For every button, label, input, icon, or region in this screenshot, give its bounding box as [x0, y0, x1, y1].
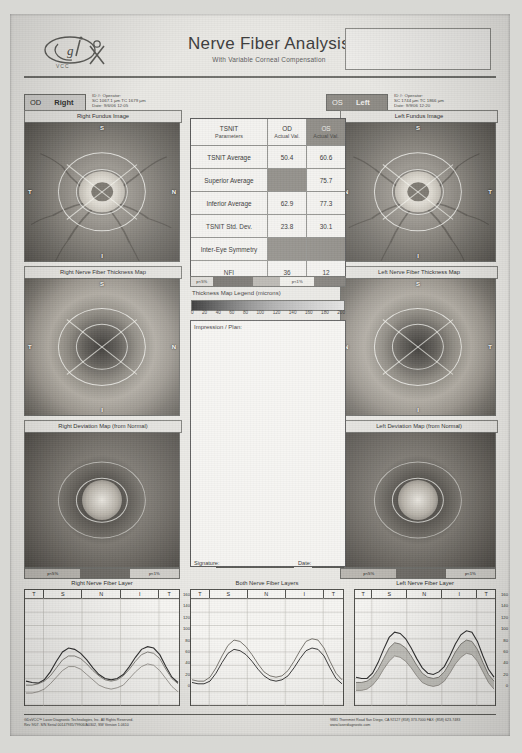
legend-tick: 60 [229, 310, 234, 315]
signature-label: Signature: [194, 560, 220, 566]
os-deviation-image [340, 432, 496, 568]
table-col-parameters-sub: Parameters [215, 133, 243, 139]
y-tick: 40 [180, 660, 190, 671]
row-os-value: 75.7 [307, 169, 345, 191]
zone-label: I [121, 590, 160, 598]
table-col-od-title: OD [282, 125, 292, 132]
impression-plan-label: Impression / Plan: [194, 324, 242, 330]
row-os-value: 60.6 [307, 146, 345, 168]
y-tick: 100 [496, 626, 508, 637]
table-col-parameters: TSNIT Parameters [191, 119, 268, 145]
zone-label: T [324, 590, 343, 598]
report-page: g VCC Nerve Fiber Analysis With Variable… [0, 0, 522, 753]
os-pvalue-1: p<1% [446, 569, 495, 578]
os-thickness-panel: Left Nerve Fiber Thickness Map S I N T [340, 266, 496, 416]
signature-line[interactable] [216, 567, 294, 568]
od-deviation-panel: Right Deviation Map (from Normal) p<5% p… [24, 420, 180, 580]
od-fundus-panel: Right Fundus Image S I [24, 110, 180, 262]
y-tick: 20 [496, 672, 508, 683]
os-fundus-quad-s: S [416, 125, 420, 131]
row-od-value: 50.4 [268, 146, 307, 168]
legend-tick: 80 [243, 310, 248, 315]
od-meta-line-3: Date: 9/6/06 12:05 [92, 103, 146, 108]
date-label: Date: [298, 560, 311, 566]
os-deviation-panel: Left Deviation Map (from Normal) p<5% p<… [340, 420, 496, 580]
legend-tick: 200 [337, 310, 345, 315]
table-row: TSNIT Average 50.4 60.6 [191, 146, 345, 169]
footer-right-line-2: www.laserdiagnostic.com [330, 723, 500, 728]
both-chart-caption: Both Nerve Fiber Layers [190, 580, 344, 586]
row-od-value [268, 238, 307, 260]
od-thickness-quad-t: T [28, 344, 32, 350]
os-thickness-image: S I N T [340, 278, 496, 416]
os-chart-plot: T S N I T [354, 589, 496, 706]
zone-label: S [372, 590, 407, 598]
zone-label: N [82, 590, 121, 598]
os-chart-yaxis: 160140120100806040200 [496, 592, 508, 695]
svg-text:VCC: VCC [56, 63, 70, 69]
row-od-value: 23.8 [268, 215, 307, 237]
center-pvalue-1: p<1% [280, 277, 314, 286]
footer-left-line-2: Rev 9/07. S/N Serial 00147935/79906/A030… [24, 723, 224, 728]
table-col-od-sub: Actual Val. [274, 133, 299, 139]
y-tick: 40 [496, 660, 508, 671]
legend-tick: 40 [216, 310, 221, 315]
row-label: TSNIT Average [191, 146, 268, 168]
row-os-value: 30.1 [307, 215, 345, 237]
legend-caption: Thickness Map Legend (microns) [192, 290, 281, 296]
y-tick: 80 [496, 638, 508, 649]
date-line[interactable] [312, 567, 344, 568]
legend-tick: 180 [321, 310, 329, 315]
row-os-value: 77.3 [307, 192, 345, 214]
report-sheet: g VCC Nerve Fiber Analysis With Variable… [10, 14, 510, 736]
os-thickness-quad-i: I [417, 407, 419, 413]
zone-label: T [355, 590, 372, 598]
zone-label: N [248, 590, 286, 598]
od-eye-side: Right [54, 95, 73, 110]
y-tick: 140 [180, 603, 190, 614]
zone-label: T [25, 590, 44, 598]
svg-text:g: g [67, 43, 74, 58]
os-tsnit-chart: Left Nerve Fiber Layer T S N I T [354, 580, 496, 706]
os-eye-side: Left [356, 95, 370, 110]
table-row: Inferior Average 62.9 77.3 [191, 192, 345, 215]
od-fundus-quad-s: S [100, 125, 104, 131]
os-pvalue-5: p<5% [341, 569, 396, 578]
od-thickness-image: S I T N [24, 278, 180, 416]
legend-scale: 0 20 40 60 80 100 120 140 160 180 200 [191, 310, 345, 315]
table-col-od: OD Actual Val. [268, 119, 307, 145]
zone-label: I [442, 590, 477, 598]
od-tsnit-chart: Right Nerve Fiber Layer T S N I T [24, 580, 180, 706]
os-meta: ID #: Operator: SC 1744 µm TC 1866 µm Da… [394, 93, 444, 109]
zone-label: I [286, 590, 324, 598]
os-fundus-quad-i: I [417, 253, 419, 259]
os-thickness-quad-s: S [416, 281, 420, 287]
center-pvalue-5: p<5% [191, 277, 213, 286]
zone-label: T [477, 590, 495, 598]
od-fundus-quad-i: I [101, 253, 103, 259]
zone-label: S [210, 590, 248, 598]
table-row: Superior Average 75.7 [191, 169, 345, 192]
header-divider [24, 76, 496, 78]
table-header-row: TSNIT Parameters OD Actual Val. OS Actua… [191, 119, 345, 146]
row-label: TSNIT Std. Dev. [191, 215, 268, 237]
y-tick: 120 [496, 615, 508, 626]
both-chart-plot: T S N I T [190, 589, 344, 706]
y-tick: 160 [496, 592, 508, 603]
center-pvalue-bar: p<5% p<1% [190, 276, 346, 287]
os-eye-code: OS [332, 95, 343, 110]
tsnit-parameters-table: TSNIT Parameters OD Actual Val. OS Actua… [190, 118, 346, 284]
table-row: TSNIT Std. Dev. 23.8 30.1 [191, 215, 345, 238]
legend-tick: 160 [305, 310, 313, 315]
od-pvalue-5: p<5% [25, 569, 80, 578]
y-tick: 0 [180, 683, 190, 694]
od-thickness-quad-s: S [100, 281, 104, 287]
os-meta-line-3: Date: 9/9/06 12:20 [394, 103, 444, 108]
impression-plan-box[interactable] [190, 320, 346, 567]
os-eye-badge: OS Left [326, 94, 388, 111]
y-tick: 60 [496, 649, 508, 660]
row-label: Inter-Eye Symmetry [191, 238, 268, 260]
y-tick: 140 [496, 603, 508, 614]
od-meta: ID #: Operator: SC 1067.1 µm TC 1679 µm … [92, 93, 146, 109]
legend-tick: 140 [289, 310, 297, 315]
